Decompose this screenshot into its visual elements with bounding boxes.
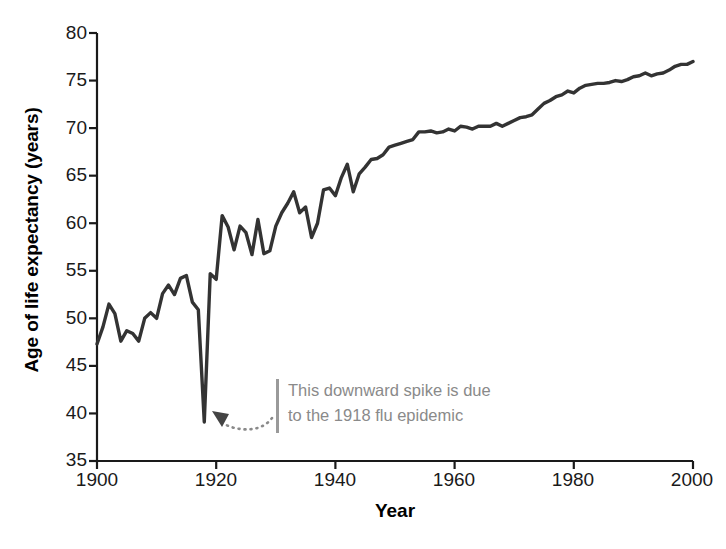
y-tick-marks [89, 33, 97, 461]
life-expectancy-line [97, 62, 693, 422]
annotation-accent-bar [276, 379, 279, 433]
annotation-text-line-1: This downward spike is due [288, 378, 491, 403]
annotation-dotted-arrow [224, 418, 272, 429]
annotation-text: This downward spike is due to the 1918 f… [288, 378, 491, 428]
plot-area [0, 0, 726, 549]
x-tick-marks [97, 461, 693, 469]
annotation-text-line-2: to the 1918 flu epidemic [288, 403, 491, 428]
chart-figure: Age of life expectancy (years) Year 80 7… [0, 0, 726, 549]
